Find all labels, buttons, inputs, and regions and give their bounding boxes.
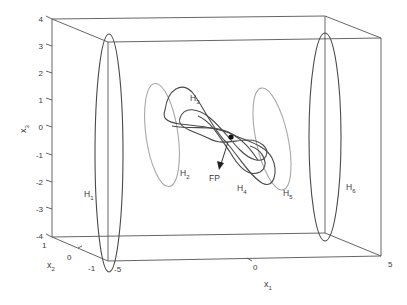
x3-tick-label: 1 — [39, 96, 44, 105]
x1-tick-label: 0 — [253, 263, 258, 272]
curve-h4-strand — [198, 116, 265, 174]
phase-space-figure: 4 3 2 1 0 -1 -2 -3 -4 x3 1 0 -1 x2 -5 0 … — [0, 0, 407, 305]
x3-axis-label: x3 — [18, 125, 30, 134]
label-h4: H4 — [237, 183, 247, 195]
x1-tick-label: 5 — [388, 260, 393, 269]
label-h5: H5 — [283, 188, 293, 200]
label-h1: H1 — [84, 189, 94, 201]
svg-text:x3: x3 — [18, 125, 30, 134]
x3-tick-label: 3 — [39, 42, 44, 51]
x3-ticks — [46, 16, 52, 237]
x1-axis-label: x1 — [264, 279, 273, 291]
x2-tick-label: 1 — [42, 241, 47, 250]
x2-axis: 1 0 -1 x2 — [42, 241, 96, 273]
label-h2: H2 — [180, 168, 190, 180]
curve-h5 — [246, 85, 299, 193]
x1-tick-label: -5 — [114, 265, 122, 274]
curve-h2 — [139, 81, 185, 188]
x2-tick-label: -1 — [88, 264, 96, 273]
label-h3: H3 — [190, 93, 200, 105]
x3-tick-label: -1 — [36, 151, 44, 160]
x3-tick-label: -2 — [36, 178, 44, 187]
x3-tick-label: 4 — [39, 15, 44, 24]
fp-arrow-shaft — [221, 142, 228, 164]
fp-arrow-head-icon — [217, 161, 224, 170]
x3-tick-label: 2 — [39, 69, 44, 78]
x3-tick-label: -4 — [36, 232, 44, 241]
fixed-point-dot — [228, 134, 233, 139]
x2-tick-label: 0 — [67, 253, 72, 262]
x3-axis: 4 3 2 1 0 -1 -2 -3 -4 x3 — [18, 15, 52, 241]
x3-tick-label: 0 — [39, 123, 44, 132]
x2-axis-label: x2 — [47, 260, 56, 272]
fp-label: FP — [209, 173, 220, 183]
x1-axis: -5 0 5 x1 — [114, 258, 393, 291]
x3-tick-label: -3 — [36, 205, 44, 214]
label-h6: H6 — [346, 182, 356, 194]
curve-h4 — [179, 110, 266, 161]
